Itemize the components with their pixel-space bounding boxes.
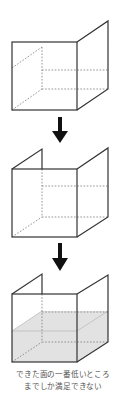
- caption-line-2: までしか満足できない: [0, 381, 126, 393]
- water-fill: [12, 311, 108, 362]
- cube-step-2: [12, 148, 108, 237]
- caption-line-1: できた面の一番低いところ: [0, 369, 126, 381]
- cube-step-1: [12, 21, 108, 110]
- arrow-down-icon: [52, 243, 68, 271]
- diagram-canvas: [0, 0, 126, 404]
- cube-step-3: [12, 274, 108, 362]
- arrow-down-icon: [52, 117, 68, 143]
